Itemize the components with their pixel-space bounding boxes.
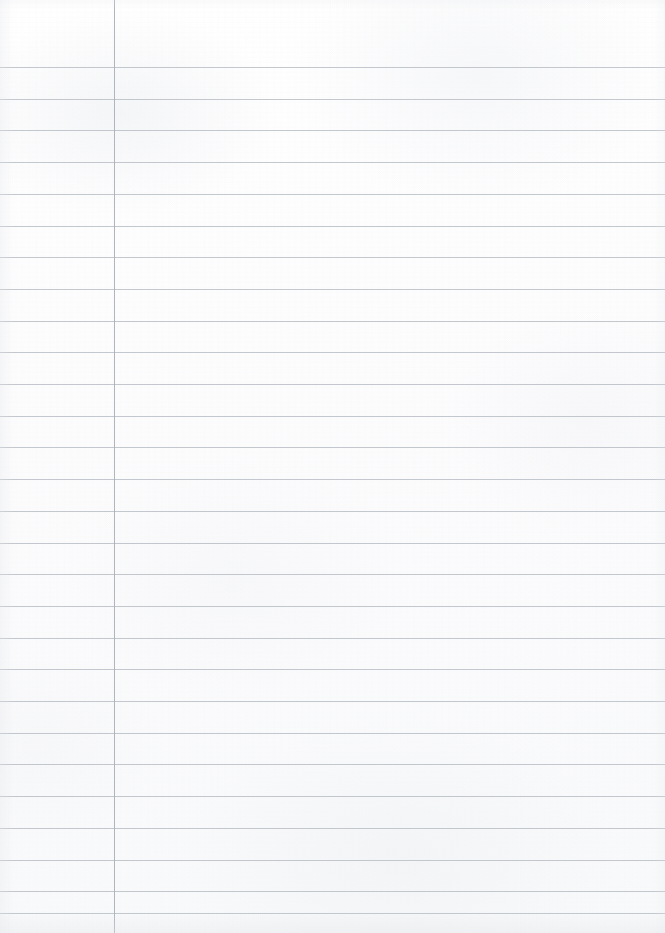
writing-area[interactable] <box>0 0 665 933</box>
notebook-page <box>0 0 665 933</box>
